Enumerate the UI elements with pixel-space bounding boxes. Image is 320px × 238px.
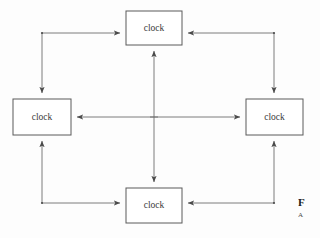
node-clock-bottom[interactable]: clock: [126, 188, 182, 223]
clock-network-diagram: clock clock clock clock: [0, 0, 320, 238]
node-label-left: clock: [32, 112, 53, 122]
node-clock-right[interactable]: clock: [246, 99, 303, 135]
node-label-right: clock: [264, 112, 285, 122]
node-label-bottom: clock: [144, 200, 165, 210]
node-clock-left[interactable]: clock: [13, 99, 71, 135]
link-bottom-right-path: [188, 141, 275, 204]
caption-line-2: A: [298, 212, 320, 219]
link-bottom-left-path: [41, 141, 120, 204]
caption-line-1: F: [298, 197, 320, 209]
link-top-left-path: [41, 32, 120, 93]
figure-caption-partial: F A: [298, 197, 320, 219]
node-label-top: clock: [144, 23, 165, 33]
link-top-right-path: [188, 32, 275, 93]
node-clock-top[interactable]: clock: [126, 11, 182, 45]
figure-canvas: clock clock clock clock F A: [0, 0, 320, 238]
